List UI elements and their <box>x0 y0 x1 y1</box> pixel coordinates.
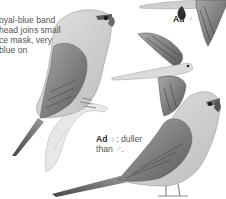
description-line-2: head joins small <box>0 25 61 35</box>
species-description: oyal-blue band head joins small ce mask,… <box>0 15 61 55</box>
female-note-line-2: than <box>96 144 113 154</box>
adult-male-label: Ad ♂ <box>173 14 193 24</box>
age-label: Ad <box>96 134 107 144</box>
field-guide-page: oyal-blue band head joins small ce mask,… <box>0 0 226 199</box>
adult-female-label: Ad ♀: duller than ♂. <box>96 134 142 154</box>
flying-bird-middle <box>112 33 193 116</box>
description-line-1: oyal-blue band <box>0 15 61 25</box>
description-line-4: blue on <box>0 45 61 55</box>
female-note: : duller <box>116 134 142 144</box>
note-period: . <box>122 144 124 154</box>
description-line-3: ce mask, very <box>0 35 61 45</box>
male-symbol-icon: ♂ <box>187 14 193 24</box>
age-label: Ad <box>173 14 184 24</box>
